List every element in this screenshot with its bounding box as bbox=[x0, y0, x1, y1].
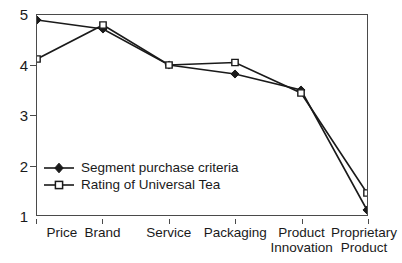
y-axis-tick-label: 4 bbox=[20, 57, 28, 72]
y-axis-tick-label: 5 bbox=[20, 7, 28, 22]
x-axis-tick-label-line2: Innovation bbox=[270, 241, 332, 256]
x-axis-tick-mark bbox=[302, 219, 303, 224]
y-axis-tick-label: 1 bbox=[20, 209, 28, 224]
x-axis-tick-label-line1: Product bbox=[278, 225, 325, 240]
line-chart: 12345 PriceBrandServicePackagingProductI… bbox=[0, 0, 402, 263]
data-point-marker bbox=[37, 56, 40, 62]
x-axis-tick-label: ProductInnovation bbox=[270, 226, 332, 255]
x-axis-tick-mark bbox=[235, 219, 236, 224]
x-axis-tick-mark bbox=[102, 219, 103, 224]
data-point-marker bbox=[231, 70, 239, 78]
x-axis-tick-mark bbox=[36, 219, 37, 224]
x-axis-tick-label: Packaging bbox=[204, 226, 267, 241]
data-point-marker bbox=[232, 59, 238, 65]
legend-label: Segment purchase criteria bbox=[81, 161, 239, 175]
data-point-marker bbox=[100, 22, 106, 28]
x-axis-tick-label: Brand bbox=[84, 226, 120, 241]
x-axis-tick-label-line1: Proprietary bbox=[331, 225, 397, 240]
x-axis-tick-label: ProprietaryProduct bbox=[331, 226, 397, 255]
open-square-marker-icon bbox=[44, 178, 74, 192]
x-axis-tick-label-line1: Price bbox=[47, 225, 78, 240]
data-point-marker bbox=[364, 190, 367, 196]
x-axis-tick-label-line1: Packaging bbox=[204, 225, 267, 240]
x-axis-tick-mark bbox=[169, 219, 170, 224]
y-axis-tick-label: 3 bbox=[20, 108, 28, 123]
x-axis-tick-label-line1: Service bbox=[146, 225, 191, 240]
x-axis-tick-label-line2: Product bbox=[331, 241, 397, 256]
x-axis-tick-mark bbox=[368, 219, 369, 224]
x-axis-tick-label: Price bbox=[47, 226, 78, 241]
x-axis-tick-label: Service bbox=[146, 226, 191, 241]
legend-item-rating-of-universal-tea: Rating of Universal Tea bbox=[44, 176, 244, 193]
y-axis: 12345 bbox=[0, 0, 36, 216]
y-axis-tick-label: 2 bbox=[20, 158, 28, 173]
data-point-marker bbox=[37, 16, 41, 24]
legend-label: Rating of Universal Tea bbox=[81, 178, 220, 192]
chart-legend: Segment purchase criteria Rating of Univ… bbox=[44, 159, 244, 193]
data-point-marker bbox=[298, 90, 304, 96]
x-axis-tick-label-line1: Brand bbox=[84, 225, 120, 240]
x-axis: PriceBrandServicePackagingProductInnovat… bbox=[36, 219, 368, 261]
legend-item-segment-purchase-criteria: Segment purchase criteria bbox=[44, 159, 244, 176]
filled-diamond-marker-icon bbox=[44, 161, 74, 175]
data-point-marker bbox=[166, 62, 172, 68]
